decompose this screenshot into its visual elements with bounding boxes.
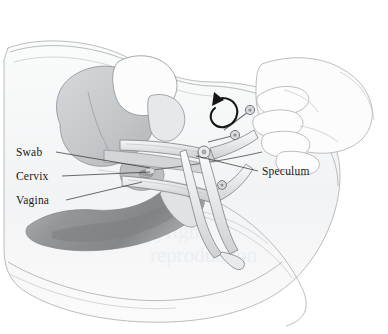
label-swab: Swab bbox=[16, 146, 42, 158]
illustration-figure: Copyright reproduction bbox=[0, 0, 388, 334]
speculum-tail-thumbscrew bbox=[218, 181, 227, 190]
illustration-canvas: Copyright reproduction bbox=[0, 0, 388, 334]
speculum-pivot-center bbox=[202, 150, 206, 154]
swab-tip bbox=[145, 168, 155, 174]
label-speculum: Speculum bbox=[262, 165, 310, 178]
label-cervix: Cervix bbox=[16, 170, 49, 182]
label-vagina: Vagina bbox=[16, 194, 49, 207]
